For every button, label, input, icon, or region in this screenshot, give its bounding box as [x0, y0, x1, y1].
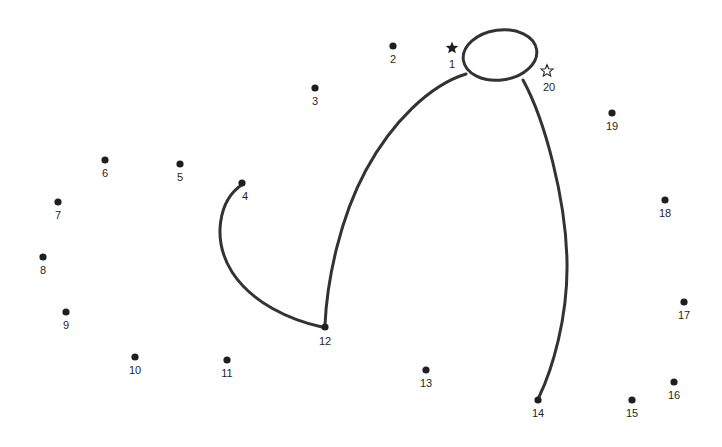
dot-to-dot-canvas: 1234567891011121314151617181920 — [0, 0, 722, 447]
dot-marker-4[interactable] — [238, 179, 245, 186]
dot-point-5[interactable]: 5 — [176, 160, 183, 183]
dot-marker-11[interactable] — [223, 356, 230, 363]
dot-point-7[interactable]: 7 — [54, 198, 61, 221]
dot-marker-14[interactable] — [534, 396, 541, 403]
dot-label-3: 3 — [312, 95, 318, 107]
dot-marker-3[interactable] — [311, 84, 318, 91]
dot-marker-17[interactable] — [680, 298, 687, 305]
dot-marker-7[interactable] — [54, 198, 61, 205]
dot-label-14: 14 — [532, 407, 544, 419]
dot-label-6: 6 — [102, 167, 108, 179]
dot-label-13: 13 — [420, 377, 432, 389]
dot-label-4: 4 — [242, 190, 248, 202]
dot-marker-10[interactable] — [131, 353, 138, 360]
dot-label-16: 16 — [668, 389, 680, 401]
dot-label-8: 8 — [40, 264, 46, 276]
dot-marker-16[interactable] — [670, 378, 677, 385]
dot-label-17: 17 — [678, 309, 690, 321]
dot-label-18: 18 — [659, 207, 671, 219]
dot-marker-8[interactable] — [39, 253, 46, 260]
dot-label-9: 9 — [63, 319, 69, 331]
dot-marker-9[interactable] — [62, 308, 69, 315]
dot-marker-18[interactable] — [661, 196, 668, 203]
dot-point-6[interactable]: 6 — [101, 156, 108, 179]
dot-label-12: 12 — [319, 335, 331, 347]
dot-point-9[interactable]: 9 — [62, 308, 69, 331]
dot-point-8[interactable]: 8 — [39, 253, 46, 276]
dot-label-1: 1 — [449, 58, 455, 70]
dot-point-3[interactable]: 3 — [311, 84, 318, 107]
dot-label-7: 7 — [55, 209, 61, 221]
dot-marker-5[interactable] — [176, 160, 183, 167]
dot-label-11: 11 — [221, 367, 232, 379]
dot-marker-13[interactable] — [422, 366, 429, 373]
canvas-background — [0, 0, 722, 447]
dot-label-15: 15 — [626, 407, 638, 419]
dot-marker-15[interactable] — [628, 396, 635, 403]
dot-marker-2[interactable] — [389, 42, 396, 49]
dot-marker-6[interactable] — [101, 156, 108, 163]
dot-marker-19[interactable] — [608, 109, 615, 116]
dot-label-20: 20 — [543, 81, 555, 93]
dot-label-2: 2 — [390, 53, 396, 65]
dot-label-10: 10 — [129, 364, 141, 376]
dot-label-5: 5 — [177, 171, 183, 183]
dot-marker-12[interactable] — [321, 323, 328, 330]
dot-point-2[interactable]: 2 — [389, 42, 396, 65]
dot-label-19: 19 — [606, 120, 618, 132]
